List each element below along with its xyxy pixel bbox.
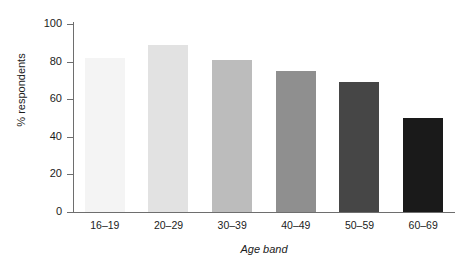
bar-chart: % respondents 020406080100 16–1920–2930–… — [0, 0, 459, 268]
bar-series — [73, 18, 455, 212]
x-tick-label: 50–59 — [328, 219, 392, 231]
bar-slot — [73, 18, 137, 212]
bar[interactable] — [148, 45, 188, 212]
bar-slot — [200, 18, 264, 212]
x-tick-label: 40–49 — [264, 219, 328, 231]
bar[interactable] — [403, 118, 443, 212]
y-tick-label: 80 — [28, 55, 62, 67]
bar-slot — [137, 18, 201, 212]
y-tick-label: 100 — [28, 17, 62, 29]
x-axis-tick-labels: 16–1920–2930–3940–4950–5960–69 — [73, 219, 455, 235]
bar[interactable] — [339, 82, 379, 212]
x-axis-title: Age band — [73, 243, 455, 255]
y-axis-title: % respondents — [15, 25, 27, 155]
y-tick-label: 60 — [28, 92, 62, 104]
bar-slot — [328, 18, 392, 212]
x-tick-label: 16–19 — [73, 219, 137, 231]
bar[interactable] — [85, 58, 125, 212]
x-tick-label: 20–29 — [137, 219, 201, 231]
y-tick-label: 40 — [28, 130, 62, 142]
x-axis-line — [73, 212, 455, 213]
bar[interactable] — [276, 71, 316, 212]
y-tick-mark — [67, 212, 73, 213]
y-tick-label: 20 — [28, 167, 62, 179]
x-tick-label: 60–69 — [391, 219, 455, 231]
bar-slot — [264, 18, 328, 212]
y-tick-label: 0 — [28, 205, 62, 217]
bar-slot — [391, 18, 455, 212]
bar[interactable] — [212, 60, 252, 212]
x-tick-label: 30–39 — [200, 219, 264, 231]
